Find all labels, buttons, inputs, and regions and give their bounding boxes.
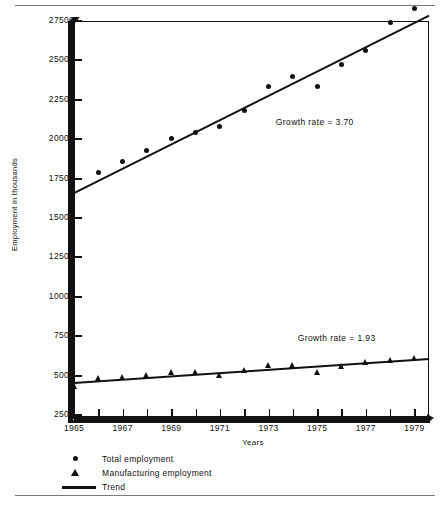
y-axis-tick bbox=[75, 296, 82, 298]
x-axis-title: Years bbox=[0, 438, 446, 447]
y-axis-tick-label: 7500 bbox=[54, 330, 74, 340]
plot-frame bbox=[74, 21, 429, 415]
total-employment-data-point bbox=[120, 159, 125, 164]
annotation-manufacturing-growth-rate: Growth rate = 1.93 bbox=[298, 333, 376, 343]
y-axis-tick-label: 2500 bbox=[54, 409, 74, 419]
employment-trend-figure: 2500500075001000012500150001750020000225… bbox=[0, 0, 446, 505]
total-employment-data-point bbox=[315, 84, 320, 89]
total-employment-data-point bbox=[96, 170, 101, 175]
y-axis-tick-label: 10000 bbox=[49, 291, 74, 301]
y-axis-tick bbox=[75, 414, 82, 416]
x-axis-tick-label: 1979 bbox=[404, 423, 424, 433]
total-employment-data-point bbox=[412, 6, 417, 11]
x-axis-tick bbox=[123, 409, 124, 416]
legend-item[interactable]: Total employment bbox=[60, 452, 360, 466]
y-axis-tick-label: 17500 bbox=[49, 173, 74, 183]
y-axis-tick bbox=[75, 375, 82, 377]
y-axis-tick bbox=[75, 217, 82, 219]
x-axis-tick bbox=[171, 409, 172, 416]
y-axis-tick-label: 27500 bbox=[49, 15, 74, 25]
x-axis-tick bbox=[414, 409, 415, 416]
chart-legend: Total employmentManufacturing employment… bbox=[60, 452, 360, 494]
x-axis-tick bbox=[98, 409, 99, 416]
x-axis-spine bbox=[74, 416, 430, 423]
legend-item[interactable]: Manufacturing employment bbox=[60, 466, 360, 480]
manufacturing-employment-data-point bbox=[119, 374, 125, 380]
x-axis-tick bbox=[196, 409, 197, 416]
y-axis-tick-label: 25000 bbox=[49, 54, 74, 64]
y-axis-tick bbox=[75, 99, 82, 101]
legend-item-label: Manufacturing employment bbox=[102, 468, 212, 478]
legend-item-label: Total employment bbox=[102, 454, 173, 464]
manufacturing-employment-data-point bbox=[289, 362, 295, 368]
x-axis-tick bbox=[390, 409, 391, 416]
y-axis-tick bbox=[75, 20, 82, 22]
legend-key bbox=[60, 466, 94, 480]
manufacturing-employment-data-point bbox=[362, 359, 368, 365]
manufacturing-employment-data-point bbox=[411, 355, 417, 361]
manufacturing-employment-data-point bbox=[192, 369, 198, 375]
manufacturing-employment-data-point bbox=[95, 375, 101, 381]
x-axis-tick bbox=[366, 409, 367, 416]
x-axis-tick bbox=[269, 409, 270, 416]
y-axis-tick bbox=[75, 178, 82, 180]
x-axis-tick bbox=[293, 409, 294, 416]
y-axis-tick-label: 20000 bbox=[49, 133, 74, 143]
x-axis-tick bbox=[147, 409, 148, 416]
legend-key bbox=[60, 452, 94, 466]
manufacturing-employment-data-point bbox=[241, 367, 247, 373]
y-axis-tick bbox=[75, 335, 82, 337]
manufacturing-employment-data-point bbox=[338, 363, 344, 369]
x-axis-tick-label: 1965 bbox=[64, 423, 84, 433]
y-axis-tick bbox=[75, 138, 82, 140]
total-employment-data-point bbox=[388, 20, 393, 25]
manufacturing-employment-data-point bbox=[387, 357, 393, 363]
triangle-marker-icon bbox=[71, 469, 79, 476]
x-axis-tick-label: 1975 bbox=[307, 423, 327, 433]
legend-item[interactable]: Trend bbox=[60, 480, 360, 494]
annotation-total-growth-rate: Growth rate = 3.70 bbox=[276, 117, 354, 127]
x-axis-tick-label: 1967 bbox=[113, 423, 133, 433]
total-employment-data-point bbox=[169, 136, 174, 141]
total-employment-data-point bbox=[339, 62, 344, 67]
line-marker-icon bbox=[62, 486, 96, 489]
manufacturing-employment-data-point bbox=[71, 383, 77, 389]
y-axis-title: Employment in thousands bbox=[10, 125, 19, 285]
x-axis-tick bbox=[244, 409, 245, 416]
legend-key bbox=[60, 480, 94, 494]
x-axis-tick bbox=[341, 409, 342, 416]
total-employment-data-point bbox=[363, 48, 368, 53]
top-divider-rule bbox=[15, 5, 435, 6]
y-axis-tick-label: 12500 bbox=[49, 251, 74, 261]
manufacturing-employment-data-point bbox=[265, 362, 271, 368]
x-axis-tick-label: 1973 bbox=[258, 423, 278, 433]
bottom-divider-rule bbox=[15, 495, 435, 496]
manufacturing-employment-data-point bbox=[143, 372, 149, 378]
x-axis-tick-label: 1969 bbox=[161, 423, 181, 433]
x-axis-tick-label: 1977 bbox=[356, 423, 376, 433]
x-axis-tick bbox=[317, 409, 318, 416]
manufacturing-employment-data-point bbox=[314, 369, 320, 375]
manufacturing-employment-data-point bbox=[168, 369, 174, 375]
circle-marker-icon bbox=[73, 456, 78, 461]
y-axis-tick-label: 22500 bbox=[49, 94, 74, 104]
x-axis-tick bbox=[74, 409, 75, 416]
total-employment-data-point bbox=[266, 84, 271, 89]
legend-item-label: Trend bbox=[102, 482, 125, 492]
x-axis-tick-label: 1971 bbox=[210, 423, 230, 433]
y-axis-tick bbox=[75, 256, 82, 258]
y-axis-tick bbox=[75, 59, 82, 61]
plot-area bbox=[74, 21, 429, 415]
y-axis-tick-label: 15000 bbox=[49, 212, 74, 222]
x-axis-spine-arrow-cap bbox=[427, 414, 434, 423]
y-axis-tick-label: 5000 bbox=[54, 370, 74, 380]
x-axis-tick bbox=[220, 409, 221, 416]
manufacturing-employment-data-point bbox=[216, 372, 222, 378]
